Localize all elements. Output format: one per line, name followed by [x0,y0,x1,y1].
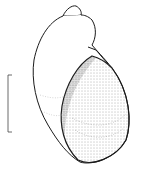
scale-bar [8,75,12,132]
shell-drawing [0,0,141,179]
shell [33,6,129,163]
spire [63,6,81,16]
